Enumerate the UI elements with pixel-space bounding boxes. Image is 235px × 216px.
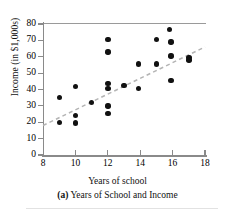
trendline (43, 24, 205, 155)
data-point (105, 86, 110, 91)
figure-caption: (a) Years of School and Income (0, 190, 235, 200)
x-axis-line (42, 155, 207, 157)
data-point (105, 37, 110, 42)
y-tick-label: 20 (6, 117, 36, 127)
data-point (168, 53, 173, 58)
y-tick-label: 40 (6, 85, 36, 95)
caption-prefix: (a) (57, 190, 68, 200)
data-point (168, 78, 173, 83)
data-point (57, 120, 62, 125)
x-axis-title: Years of school (0, 176, 235, 186)
x-tick-label: 16 (161, 158, 185, 168)
data-point (154, 61, 159, 66)
footer-rule (26, 208, 218, 209)
y-tick-label: 60 (6, 52, 36, 62)
data-point (121, 83, 126, 88)
y-tick-label: 30 (6, 101, 36, 111)
x-tick-label: 8 (31, 158, 55, 168)
y-tick-label: 50 (6, 68, 36, 78)
data-point (168, 39, 173, 44)
x-tick-label: 18 (193, 158, 217, 168)
scatter-plot-figure: Income (in $1,000s) 01020304050607080 81… (0, 0, 235, 216)
caption-text: Years of School and Income (70, 190, 177, 200)
x-tick-label: 14 (128, 158, 152, 168)
data-point (105, 49, 110, 54)
data-point (105, 111, 110, 116)
data-point (73, 120, 78, 125)
data-point (73, 84, 78, 89)
x-tick-label: 12 (96, 158, 120, 168)
data-point (186, 57, 191, 62)
data-point (136, 61, 141, 66)
data-point (105, 103, 110, 108)
y-tick-label: 70 (6, 35, 36, 45)
y-tick-label: 10 (6, 134, 36, 144)
y-tick-label: 80 (6, 19, 36, 29)
x-tick-label: 10 (63, 158, 87, 168)
